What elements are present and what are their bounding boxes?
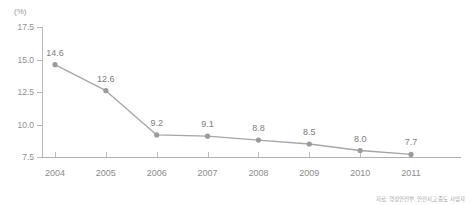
data-point-label: 12.6 — [89, 74, 123, 84]
data-point-label: 9.1 — [191, 119, 225, 129]
x-tick-label-2010: 2010 — [340, 168, 380, 178]
data-point-marker — [52, 62, 57, 67]
x-tick-label-2005: 2005 — [86, 168, 126, 178]
line-chart: (%) 17.515.012.510.07.5 14.612.69.29.18.… — [0, 0, 471, 205]
x-tick-label-2008: 2008 — [238, 168, 278, 178]
data-point-label: 8.5 — [292, 127, 326, 137]
x-tick-label-2011: 2011 — [391, 168, 431, 178]
data-point-marker — [103, 88, 108, 93]
x-tick-label-2004: 2004 — [35, 168, 75, 178]
data-point-label: 9.2 — [140, 118, 174, 128]
x-tick-label-2007: 2007 — [188, 168, 228, 178]
source-note: 자료: 행정안전부, 안전사고 중도 사망자 — [376, 195, 465, 203]
data-point-marker — [408, 152, 413, 157]
x-tick-label-2006: 2006 — [137, 168, 177, 178]
data-point-marker — [154, 132, 159, 137]
data-point-marker — [205, 134, 210, 139]
data-point-marker — [256, 138, 261, 143]
x-tick-label-2009: 2009 — [289, 168, 329, 178]
data-point-label: 14.6 — [38, 48, 72, 58]
data-point-label: 8.0 — [343, 134, 377, 144]
data-point-label: 8.8 — [241, 123, 275, 133]
data-point-marker — [307, 141, 312, 146]
data-point-label: 7.7 — [394, 137, 428, 147]
data-point-marker — [358, 148, 363, 153]
